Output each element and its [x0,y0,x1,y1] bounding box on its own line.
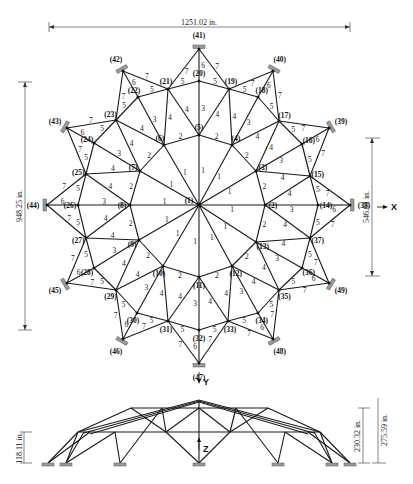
member-group-label: 7 [114,311,118,320]
member-group-label: 7 [251,79,255,88]
member-group-label: 1 [163,197,167,206]
node-label: (4) [231,134,240,143]
node-26 [77,204,80,207]
node-31 [167,320,170,323]
member-group-label: 5 [122,101,126,110]
truss-member [164,145,199,205]
node-label: (7) [129,163,138,172]
member-group-label: 6 [193,342,197,351]
member-group-label: 5 [181,77,185,86]
node-label: (22) [128,86,141,95]
elev-small-label: 118.11 in. [15,432,24,464]
member-group-label: 7 [122,92,126,101]
member-group-label: 5 [100,124,104,133]
support-icon [42,463,54,466]
member-group-label: 7 [321,149,325,158]
node-32 [198,329,201,332]
member-group-label: 5 [84,250,88,259]
member-group-label: 7 [270,310,274,319]
node-label: (5) [195,123,204,132]
member-group-label: 7 [314,258,318,267]
support-icon [272,463,284,466]
member-group-label: 4 [288,189,292,198]
node-label: (38) [358,201,371,210]
node-4 [231,144,234,147]
member-group-label: 5 [316,185,320,194]
node-label: (13) [256,242,269,251]
member-group-label: 5 [316,218,320,227]
member-group-label: 7 [62,182,66,191]
member-group-label: 5 [76,218,80,227]
member-group-label: 4 [108,182,112,191]
support-icon [193,463,205,466]
node-label: (19) [225,77,238,86]
member-group-label: 5 [150,316,154,325]
node-41 [198,48,201,51]
member-group-label: 5 [308,155,312,164]
member-group-label: 7 [185,67,189,76]
node-label: (31) [160,325,173,334]
member-group-label: 2 [129,219,133,228]
elev-total-label: 275.59 in. [380,414,389,446]
node-42 [122,70,125,73]
node-49 [328,282,331,285]
support-icon [60,463,72,466]
node-7 [139,170,142,173]
node-label: (48) [274,347,287,356]
member-group-label: 7 [278,91,282,100]
node-label: (9) [128,240,137,249]
node-label: (44) [27,201,40,210]
member-group-label: 7 [303,286,307,295]
member-group-label: 5 [270,102,274,111]
node-label: (37) [311,236,324,245]
node-46 [122,338,125,341]
node-label: (3) [258,163,267,172]
member-group-label: 4 [130,139,134,148]
node-10 [162,265,165,268]
node-38 [349,204,352,207]
member-group-label: 5 [76,184,80,193]
member-group-label: 3 [290,205,294,214]
member-group-label: 5 [291,125,295,134]
elev-mid-label: 230.32 in. [353,420,362,452]
node-label: (43) [49,117,62,126]
dome-truss-diagram: 1251.02 in. 948.25 in. 546.61 in. X Y 11… [0,0,413,484]
node-11 [198,276,201,279]
node-label: (1) [185,196,194,205]
node-8 [129,204,132,207]
member-group-label: 2 [262,182,266,191]
member-group-label: 5 [308,250,312,259]
left-height-label: 948.25 in. [15,190,24,222]
node-label: (34) [256,316,269,325]
node-47 [198,362,201,365]
member-group-label: 4 [140,124,144,133]
node-label: (17) [278,111,291,120]
node-label: (18) [256,86,269,95]
node-40 [272,70,275,73]
top-width-label: 1251.02 in. [181,18,217,27]
member-group-label: 3 [201,104,205,113]
member-group-label: 1 [170,180,174,189]
node-label: (2) [269,201,278,210]
node-label: (35) [278,292,291,301]
member-group-label: 4 [262,263,266,272]
member-group-label: 1 [230,205,234,214]
member-group-label: 3 [247,118,251,127]
node-label: (47) [193,373,206,382]
member-group-label: 7 [247,329,251,338]
support-icon [326,463,338,466]
member-group-label: 7 [89,116,93,125]
member-group-label: 3 [145,283,149,292]
member-group-label: 4 [215,110,219,119]
truss-member [232,145,256,171]
member-group-label: 2 [215,271,219,280]
node-label: (49) [335,286,348,295]
member-group-label: 7 [331,220,335,229]
node-19 [228,88,231,91]
member-group-label: 5 [270,300,274,309]
member-group-label: 4 [233,112,237,121]
elevation-view: Z [42,400,356,466]
member-group-label: 2 [179,132,183,141]
node-label: (12) [230,269,243,278]
node-1 [197,203,201,207]
